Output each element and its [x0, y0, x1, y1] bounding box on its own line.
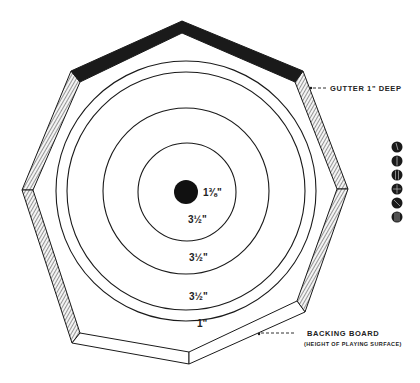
ring1-dimension: 3½": [188, 214, 207, 225]
outer-ring-dimension: 1": [197, 318, 208, 329]
leader-dot: [258, 333, 260, 335]
leader-dot: [310, 87, 312, 89]
bullseye: [174, 180, 198, 204]
backing-board-callout: BACKING BOARD (HEIGHT OF PLAYING SURFACE…: [258, 329, 402, 347]
gutter-callout: GUTTER 1" DEEP: [310, 84, 402, 93]
backing-board-label: BACKING BOARD: [307, 329, 379, 338]
ring2-dimension: 3½": [189, 252, 208, 263]
token-stack: [392, 142, 403, 223]
token: [392, 184, 403, 195]
backing-board-note: (HEIGHT OF PLAYING SURFACE): [304, 341, 402, 347]
ring3-dimension: 3½": [189, 291, 208, 302]
bullseye-dimension: 1⅜": [203, 187, 222, 198]
gutter-label: GUTTER 1" DEEP: [330, 84, 402, 93]
token: [392, 198, 403, 209]
token: [392, 142, 403, 153]
token: [392, 170, 403, 181]
target-board-diagram: 1⅜" 3½" 3½" 3½" 1" GUTTER 1" DEEP BACKIN…: [0, 0, 420, 383]
token: [392, 156, 403, 167]
token: [392, 212, 403, 223]
